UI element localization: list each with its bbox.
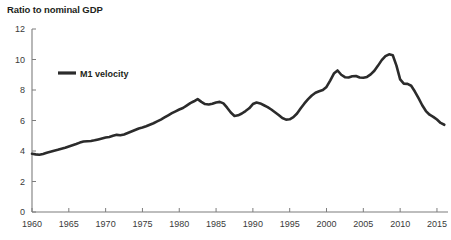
x-tick-label: 2015: [427, 219, 447, 229]
chart-container: Ratio to nominal GDP 024681012 196019651…: [0, 0, 451, 240]
chart-legend: M1 velocity: [58, 69, 129, 79]
y-tick-label: 4: [20, 146, 25, 156]
y-tick-label: 0: [20, 207, 25, 217]
y-tick-label: 8: [20, 85, 25, 95]
x-axis-ticks: 1960196519701975198019851990199520002005…: [22, 208, 447, 229]
x-tick-label: 2005: [353, 219, 373, 229]
x-tick-label: 1990: [243, 219, 263, 229]
x-tick-label: 2010: [390, 219, 410, 229]
x-tick-label: 2000: [316, 219, 336, 229]
chart-plot: 024681012 196019651970197519801985199019…: [0, 0, 451, 240]
x-tick-label: 1965: [59, 219, 79, 229]
legend-label-m1-velocity: M1 velocity: [80, 69, 129, 79]
x-tick-label: 1960: [22, 219, 42, 229]
x-tick-label: 1970: [96, 219, 116, 229]
x-tick-label: 1985: [206, 219, 226, 229]
y-tick-label: 6: [20, 116, 25, 126]
y-tick-label: 12: [15, 24, 25, 34]
x-tick-label: 1975: [132, 219, 152, 229]
x-tick-label: 1980: [169, 219, 189, 229]
x-tick-label: 1995: [280, 219, 300, 229]
y-tick-label: 10: [15, 55, 25, 65]
y-axis-ticks: 024681012: [15, 24, 36, 217]
y-tick-label: 2: [20, 177, 25, 187]
